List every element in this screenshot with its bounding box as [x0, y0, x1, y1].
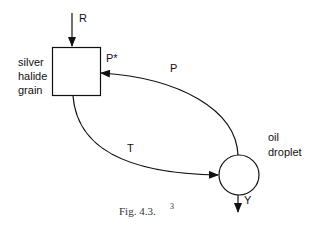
arrow-p — [101, 73, 238, 155]
label-t: T — [127, 142, 134, 154]
droplet-circle — [219, 155, 259, 195]
grain-label-3: grain — [18, 84, 42, 96]
diagram-canvas: R silver halide grain P* P T oil droplet… — [0, 0, 320, 231]
droplet-label-2: droplet — [268, 146, 302, 158]
label-p: P — [170, 62, 177, 74]
grain-label-1: silver — [18, 56, 44, 68]
arrow-t — [73, 96, 218, 175]
grain-label-2: halide — [18, 70, 47, 82]
label-p-star: P* — [106, 52, 118, 64]
grain-box — [53, 48, 101, 96]
caption-footnote: 3 — [170, 202, 174, 211]
label-r: R — [79, 12, 87, 24]
label-y: Y — [244, 194, 252, 206]
figure-caption: Fig. 4.3. — [119, 205, 156, 217]
droplet-label-1: oil — [268, 131, 279, 143]
